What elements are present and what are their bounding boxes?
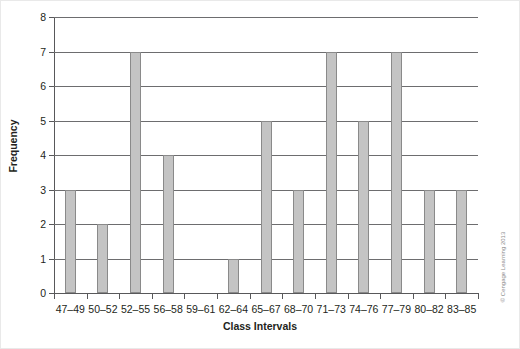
bar [228, 259, 239, 294]
y-tick-label: 8 [40, 11, 46, 23]
y-tick-label: 5 [40, 115, 46, 127]
x-tick-mark [54, 294, 55, 299]
x-tick-mark [250, 294, 251, 299]
bars-layer [54, 17, 478, 293]
x-tick-label: 52–55 [121, 303, 150, 315]
x-tick-label: 80–82 [414, 303, 443, 315]
x-tick-label: 71–73 [317, 303, 346, 315]
y-tick-label: 7 [40, 46, 46, 58]
x-tick-mark [282, 294, 283, 299]
bar [97, 224, 108, 293]
x-tick-mark [315, 294, 316, 299]
y-tick-label: 6 [40, 80, 46, 92]
x-tick-mark [413, 294, 414, 299]
x-tick-label: 68–70 [284, 303, 313, 315]
x-tick-label: 50–52 [88, 303, 117, 315]
x-tick-mark [380, 294, 381, 299]
chart-page: Frequency 012345678 47–4950–5252–5556–58… [0, 0, 520, 349]
plot-area: 012345678 47–4950–5252–5556–5859–6162–64… [54, 17, 478, 293]
x-tick-label: 47–49 [56, 303, 85, 315]
x-tick-mark [348, 294, 349, 299]
x-tick-mark [119, 294, 120, 299]
x-tick-mark [152, 294, 153, 299]
x-axis-title: Class Intervals [0, 320, 520, 332]
y-axis-title: Frequency [7, 119, 19, 172]
x-tick-mark [445, 294, 446, 299]
x-tick-label: 56–58 [154, 303, 183, 315]
x-tick-mark [478, 294, 479, 299]
x-tick-label: 83–85 [447, 303, 476, 315]
x-tick-label: 77–79 [382, 303, 411, 315]
y-tick-label: 0 [40, 287, 46, 299]
y-tick-label: 3 [40, 184, 46, 196]
y-tick-label: 1 [40, 253, 46, 265]
x-tick-label: 59–61 [186, 303, 215, 315]
bar [358, 121, 369, 294]
x-tick-label: 74–76 [349, 303, 378, 315]
x-tick-label: 62–64 [219, 303, 248, 315]
x-axis-line [54, 293, 479, 294]
x-tick-mark [217, 294, 218, 299]
bar [456, 190, 467, 294]
bar [424, 190, 435, 294]
bar [326, 52, 337, 294]
y-tick-label: 4 [40, 149, 46, 161]
bar [65, 190, 76, 294]
bar [391, 52, 402, 294]
x-tick-mark [184, 294, 185, 299]
bar [293, 190, 304, 294]
bar [163, 155, 174, 293]
y-tick-label: 2 [40, 218, 46, 230]
x-tick-mark [87, 294, 88, 299]
bar [130, 52, 141, 294]
copyright-credit: © Cengage Learning 2013 [500, 232, 506, 302]
x-tick-label: 65–67 [251, 303, 280, 315]
bar [261, 121, 272, 294]
